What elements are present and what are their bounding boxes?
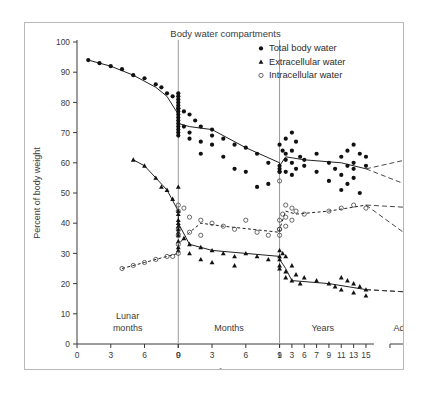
point-total-body-water bbox=[193, 118, 197, 122]
trend-line bbox=[122, 205, 366, 268]
point-extracellular-water bbox=[314, 278, 319, 282]
point-total-body-water bbox=[314, 170, 318, 174]
point-total-body-water bbox=[165, 91, 169, 95]
legend-label-0: Total body water bbox=[269, 43, 337, 53]
point-total-body-water bbox=[302, 158, 306, 162]
point-extracellular-water bbox=[283, 275, 288, 279]
point-total-body-water bbox=[345, 149, 349, 153]
point-total-body-water bbox=[345, 182, 349, 186]
x-tick-label: 1 bbox=[277, 350, 282, 360]
point-extracellular-water bbox=[232, 263, 237, 267]
point-extracellular-water bbox=[187, 242, 192, 246]
point-total-body-water bbox=[255, 185, 259, 189]
point-total-body-water bbox=[131, 73, 135, 77]
y-tick-label: 20 bbox=[61, 279, 71, 289]
point-total-body-water bbox=[171, 94, 175, 98]
series-extracellular-water: ♂♀ bbox=[131, 157, 403, 297]
axes: 0102030405060708090100Percent of body we… bbox=[32, 37, 403, 369]
point-total-body-water bbox=[86, 58, 90, 62]
point-total-body-water bbox=[244, 146, 248, 150]
legend-label-1: Extracellular water bbox=[269, 57, 345, 67]
point-total-body-water bbox=[255, 152, 259, 156]
y-tick-label: 10 bbox=[61, 309, 71, 319]
x-tick-label: 3 bbox=[290, 350, 295, 360]
point-total-body-water bbox=[294, 140, 298, 144]
point-intracellular-water bbox=[255, 230, 259, 234]
point-extracellular-water bbox=[142, 163, 147, 167]
adult-branch-male bbox=[366, 205, 403, 208]
legend-label-2: Intracellular water bbox=[269, 70, 342, 80]
point-intracellular-water bbox=[187, 215, 191, 219]
point-total-body-water bbox=[266, 182, 270, 186]
point-extracellular-water bbox=[277, 248, 282, 252]
point-intracellular-water bbox=[199, 233, 203, 237]
point-total-body-water bbox=[232, 167, 236, 171]
point-intracellular-water bbox=[266, 233, 270, 237]
point-intracellular-water bbox=[352, 203, 356, 207]
point-total-body-water bbox=[314, 152, 318, 156]
point-total-body-water bbox=[294, 167, 298, 171]
x-tick-label: 7 bbox=[314, 350, 319, 360]
point-total-body-water bbox=[266, 161, 270, 165]
point-total-body-water bbox=[199, 140, 203, 144]
point-intracellular-water bbox=[284, 203, 288, 207]
point-total-body-water bbox=[352, 176, 356, 180]
point-total-body-water bbox=[176, 94, 180, 98]
point-intracellular-water bbox=[290, 206, 294, 210]
point-total-body-water bbox=[176, 134, 180, 138]
point-total-body-water bbox=[232, 143, 236, 147]
y-tick-label: 100 bbox=[56, 37, 70, 47]
legend: Total body waterExtracellular waterIntra… bbox=[259, 43, 346, 80]
point-total-body-water bbox=[284, 170, 288, 174]
y-tick-label: 40 bbox=[61, 218, 71, 228]
point-extracellular-water bbox=[266, 257, 271, 261]
point-intracellular-water bbox=[364, 206, 368, 210]
segment-label-lunar: Lunar bbox=[116, 311, 139, 321]
segment-label-lunar: months bbox=[113, 323, 143, 333]
point-extracellular-water bbox=[187, 251, 192, 255]
x-tick-label: 0 bbox=[75, 350, 80, 360]
point-total-body-water bbox=[187, 112, 191, 116]
y-tick-label: 90 bbox=[61, 67, 71, 77]
point-total-body-water bbox=[284, 158, 288, 162]
adult-branch-male bbox=[366, 157, 403, 169]
point-intracellular-water bbox=[171, 254, 175, 258]
point-intracellular-water bbox=[302, 212, 306, 216]
point-extracellular-water bbox=[302, 275, 307, 279]
point-intracellular-water bbox=[244, 218, 248, 222]
point-intracellular-water bbox=[199, 218, 203, 222]
body-water-chart: 0102030405060708090100Percent of body we… bbox=[25, 23, 403, 369]
point-total-body-water bbox=[199, 124, 203, 128]
point-extracellular-water bbox=[294, 272, 299, 276]
point-total-body-water bbox=[277, 170, 281, 174]
point-total-body-water bbox=[187, 131, 191, 135]
y-tick-label: 80 bbox=[61, 98, 71, 108]
x-tick-label: 6 bbox=[302, 350, 307, 360]
point-total-body-water bbox=[290, 149, 294, 153]
point-extracellular-water bbox=[198, 257, 203, 261]
point-extracellular-water bbox=[364, 293, 369, 297]
segment-label-months: Months bbox=[214, 323, 244, 333]
point-total-body-water bbox=[339, 188, 343, 192]
point-total-body-water bbox=[221, 155, 225, 159]
y-tick-label: 0 bbox=[65, 339, 70, 349]
point-total-body-water bbox=[210, 127, 214, 131]
chart-title: Body water compartments bbox=[170, 28, 281, 39]
point-total-body-water bbox=[345, 164, 349, 168]
point-intracellular-water bbox=[284, 224, 288, 228]
point-total-body-water bbox=[364, 155, 368, 159]
y-tick-label: 30 bbox=[61, 249, 71, 259]
point-total-body-water bbox=[187, 137, 191, 141]
point-total-body-water bbox=[210, 143, 214, 147]
x-tick-label: 0 bbox=[176, 350, 181, 360]
point-total-body-water bbox=[221, 137, 225, 141]
point-total-body-water bbox=[182, 109, 186, 113]
point-total-body-water bbox=[109, 64, 113, 68]
point-intracellular-water bbox=[294, 209, 298, 213]
adult-branch-female bbox=[366, 290, 403, 293]
point-total-body-water bbox=[284, 137, 288, 141]
point-extracellular-water bbox=[357, 284, 362, 288]
point-extracellular-water bbox=[131, 157, 136, 161]
point-extracellular-water bbox=[277, 263, 282, 267]
point-total-body-water bbox=[284, 152, 288, 156]
